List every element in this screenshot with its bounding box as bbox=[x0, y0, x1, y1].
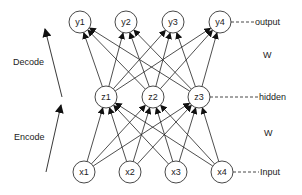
node-y4: y4 bbox=[209, 11, 231, 33]
node-label: z2 bbox=[148, 92, 158, 102]
node-label: x3 bbox=[171, 167, 181, 177]
node-label: y4 bbox=[215, 17, 225, 27]
upper-weight-label: W bbox=[263, 50, 272, 60]
edge-x4-z2 bbox=[161, 105, 215, 163]
node-z2: z2 bbox=[142, 86, 164, 108]
node-label: x1 bbox=[79, 167, 89, 177]
node-label: x2 bbox=[125, 167, 135, 177]
lower-weight-label: W bbox=[264, 128, 273, 138]
node-x2: x2 bbox=[119, 161, 141, 183]
node-x3: x3 bbox=[165, 161, 187, 183]
node-label: y3 bbox=[168, 17, 178, 27]
edge-z2-y1 bbox=[88, 30, 145, 89]
node-label: y2 bbox=[121, 17, 131, 27]
node-label: z3 bbox=[194, 92, 204, 102]
edge-z3-y4 bbox=[202, 33, 217, 86]
input-layer-label: Input bbox=[260, 167, 281, 177]
node-y3: y3 bbox=[162, 11, 184, 33]
node-y2: y2 bbox=[115, 11, 137, 33]
edge-z3-y2 bbox=[134, 30, 191, 89]
node-y1: y1 bbox=[69, 11, 91, 33]
edge-z3-y1 bbox=[90, 28, 190, 91]
autoencoder-diagram: y1y2y3y4z1z2z3x1x2x3x4 Decode Encode out… bbox=[0, 0, 302, 195]
node-x1: x1 bbox=[73, 161, 95, 183]
edge-z1-y1 bbox=[84, 33, 103, 87]
encode-label: Encode bbox=[14, 132, 45, 142]
node-label: y1 bbox=[75, 17, 85, 27]
edge-x4-z1 bbox=[116, 103, 213, 166]
hidden-layer-label: hidden bbox=[259, 92, 286, 102]
edge-x3-z1 bbox=[114, 105, 169, 164]
node-label: z1 bbox=[101, 92, 111, 102]
output-layer-label: output bbox=[255, 17, 281, 27]
node-z1: z1 bbox=[95, 86, 117, 108]
flow-arrows: Decode Encode bbox=[13, 29, 62, 172]
node-z3: z3 bbox=[188, 86, 210, 108]
encode-arrow-icon bbox=[46, 105, 61, 172]
node-x4: x4 bbox=[211, 161, 233, 183]
edge-x1-z1 bbox=[87, 108, 103, 161]
edge-z3-y3 bbox=[177, 33, 196, 87]
layer-labels: output hidden Input W W bbox=[210, 17, 286, 177]
node-label: x4 bbox=[217, 167, 227, 177]
decode-arrow-icon bbox=[45, 29, 62, 97]
decode-label: Decode bbox=[13, 57, 44, 67]
